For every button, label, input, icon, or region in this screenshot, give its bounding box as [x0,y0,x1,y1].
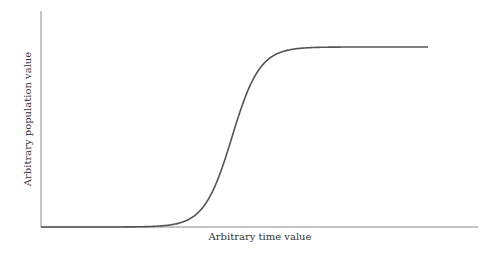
chart: Arbitrary time value Arbitrary populatio… [0,0,485,258]
x-axis-label: Arbitrary time value [208,231,312,242]
logistic-curve [41,47,428,227]
y-axis-label: Arbitrary population value [22,52,33,188]
